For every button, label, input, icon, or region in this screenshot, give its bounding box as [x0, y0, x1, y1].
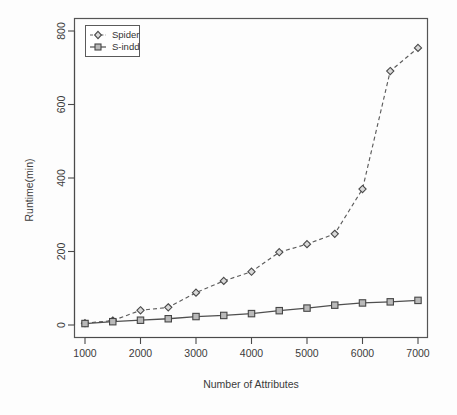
data-point [387, 299, 393, 305]
data-point [248, 310, 254, 316]
x-tick-label-2000: 2000 [129, 347, 153, 359]
data-point [221, 312, 227, 318]
y-tick-labels: 0 200 400 600 800 [55, 22, 67, 328]
chart-figure: 0 200 400 600 800 1000 2000 3000 4000 50… [0, 0, 457, 415]
data-point [332, 302, 338, 308]
data-point [359, 185, 366, 192]
data-point [331, 230, 338, 237]
plot-frame [75, 19, 428, 338]
x-tick-label-1000: 1000 [73, 347, 97, 359]
data-point [82, 320, 88, 326]
data-point [248, 268, 255, 275]
x-tick-label-6000: 6000 [351, 347, 375, 359]
y-tick-label-200: 200 [55, 243, 67, 261]
y-tick-label-0: 0 [55, 322, 67, 328]
data-point [387, 67, 394, 74]
data-point [359, 300, 365, 306]
x-tick-label-7000: 7000 [406, 347, 430, 359]
series-s-indd [82, 297, 421, 327]
data-point [165, 304, 172, 311]
x-axis-title: Number of Attributes [203, 378, 299, 390]
y-tick-label-400: 400 [55, 169, 67, 187]
data-point [137, 307, 144, 314]
data-point [276, 249, 283, 256]
x-tick-labels: 1000 2000 3000 4000 5000 6000 7000 [73, 347, 430, 359]
data-point [276, 307, 282, 313]
x-axis-ticks [85, 338, 418, 345]
data-point [220, 277, 227, 284]
y-axis-ticks [68, 31, 75, 325]
y-tick-label-800: 800 [55, 22, 67, 40]
legend-marker-square-icon [95, 44, 101, 50]
legend-label-sindd: S-indd [112, 41, 139, 52]
data-point [165, 316, 171, 322]
data-point [414, 44, 421, 51]
series-layer [81, 44, 421, 326]
series-spider [81, 44, 421, 326]
y-axis-title: Runtime(min) [23, 158, 35, 221]
data-point [193, 313, 199, 319]
data-point [415, 297, 421, 303]
data-point [192, 289, 199, 296]
data-point [110, 318, 116, 324]
data-point [303, 241, 310, 248]
chart-legend: Spider S-indd [86, 26, 140, 57]
data-point [304, 305, 310, 311]
x-tick-label-4000: 4000 [240, 347, 264, 359]
data-point [137, 317, 143, 323]
x-tick-label-5000: 5000 [295, 347, 319, 359]
x-tick-label-3000: 3000 [184, 347, 208, 359]
series-line-spider [85, 48, 418, 323]
legend-label-spider: Spider [112, 29, 139, 40]
y-tick-label-600: 600 [55, 96, 67, 114]
runtime-line-chart: 0 200 400 600 800 1000 2000 3000 4000 50… [0, 0, 457, 415]
